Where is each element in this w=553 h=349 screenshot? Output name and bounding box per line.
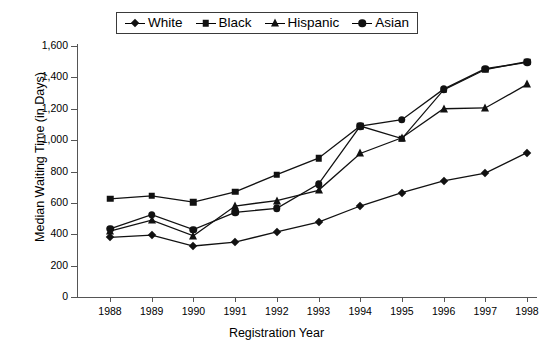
data-point-asian-1990 <box>190 226 198 234</box>
data-point-black-1992 <box>274 171 281 178</box>
data-point-hispanic-1997 <box>481 104 489 112</box>
data-point-asian-1991 <box>231 209 239 217</box>
chart-figure: WhiteBlackHispanicAsian 02004006008001,0… <box>0 0 553 349</box>
data-point-black-1990 <box>190 199 197 206</box>
plot-area: 02004006008001,0001,2001,4001,600 198819… <box>0 0 553 349</box>
data-point-hispanic-1994 <box>356 149 364 157</box>
data-point-black-1993 <box>315 155 322 162</box>
data-point-asian-1996 <box>440 85 448 93</box>
data-point-asian-1989 <box>148 211 156 219</box>
series-line-asian <box>110 62 527 229</box>
data-point-asian-1994 <box>356 122 364 130</box>
data-point-hispanic-1998 <box>523 80 531 88</box>
data-point-black-1989 <box>148 193 155 200</box>
data-point-hispanic-1992 <box>273 196 281 204</box>
data-point-asian-1998 <box>523 59 531 67</box>
data-point-asian-1997 <box>482 65 490 73</box>
data-point-asian-1992 <box>273 205 281 213</box>
x-axis-label: Registration Year <box>0 326 553 340</box>
y-axis-label: Median Waiting Time (in Days) <box>33 47 47 267</box>
data-point-hispanic-1995 <box>398 133 406 141</box>
data-point-black-1988 <box>107 196 114 203</box>
data-point-black-1991 <box>232 189 239 196</box>
data-point-asian-1988 <box>106 225 114 233</box>
data-point-asian-1995 <box>398 116 406 124</box>
data-point-hispanic-1996 <box>440 104 448 112</box>
data-point-asian-1993 <box>315 180 323 188</box>
